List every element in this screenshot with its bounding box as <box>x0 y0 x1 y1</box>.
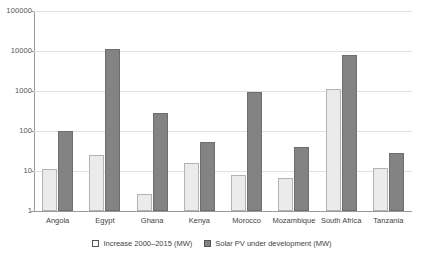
bar-group <box>223 11 270 211</box>
bar-chart: 100000100001000100101 AngolaEgyptGhanaKe… <box>0 0 424 265</box>
bar-under-development <box>153 113 168 211</box>
bar-increase <box>42 169 57 211</box>
legend-item[interactable]: Solar PV under development (MW) <box>204 239 331 248</box>
legend-swatch-light <box>92 240 99 247</box>
bar-under-development <box>200 142 215 211</box>
x-axis-category-label: Morocco <box>223 216 270 225</box>
legend-label: Solar PV under development (MW) <box>215 239 331 248</box>
y-axis-tick-label: 100000 <box>2 7 32 15</box>
legend-item[interactable]: Increase 2000–2015 (MW) <box>92 239 192 248</box>
x-axis-category-label: South Africa <box>318 216 365 225</box>
bar-group <box>318 11 365 211</box>
bar-group <box>176 11 223 211</box>
y-axis-tick-label: 10 <box>2 167 32 175</box>
bar-under-development <box>247 92 262 211</box>
bar-group <box>270 11 317 211</box>
chart-legend: Increase 2000–2015 (MW)Solar PV under de… <box>0 239 424 248</box>
bar-group <box>34 11 81 211</box>
bar-under-development <box>105 49 120 211</box>
x-axis-category-label: Egypt <box>81 216 128 225</box>
y-axis-tick-label: 1 <box>2 207 32 215</box>
legend-swatch-dark <box>204 240 211 247</box>
bar-under-development <box>389 153 404 211</box>
x-axis-category-label: Mozambique <box>270 216 317 225</box>
x-axis-category-label: Tanzania <box>365 216 412 225</box>
x-axis-category-label: Ghana <box>129 216 176 225</box>
x-axis-category-label: Kenya <box>176 216 223 225</box>
bar-group <box>81 11 128 211</box>
bar-increase <box>89 155 104 211</box>
bar-under-development <box>58 131 73 211</box>
bar-increase <box>231 175 246 211</box>
bar-group <box>365 11 412 211</box>
y-axis-tick-label: 100 <box>2 127 32 135</box>
y-axis-tick-label: 10000 <box>2 47 32 55</box>
bar-increase <box>137 194 152 211</box>
plot-area <box>34 11 412 211</box>
bar-increase <box>326 89 341 211</box>
bar-under-development <box>294 147 309 211</box>
y-axis-tick-labels: 100000100001000100101 <box>0 0 32 265</box>
bar-increase <box>278 178 293 211</box>
bar-increase <box>373 168 388 211</box>
bar-under-development <box>342 55 357 211</box>
legend-label: Increase 2000–2015 (MW) <box>103 239 192 248</box>
y-axis-tick-label: 1000 <box>2 87 32 95</box>
bar-increase <box>184 163 199 211</box>
x-axis-category-label: Angola <box>34 216 81 225</box>
bar-group <box>129 11 176 211</box>
